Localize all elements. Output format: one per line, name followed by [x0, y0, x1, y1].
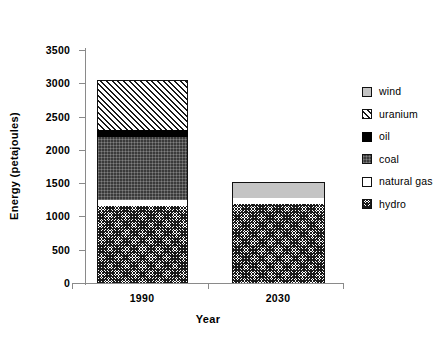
- y-tick-3500: 3500: [79, 50, 85, 51]
- x-category-label-1990: 1990: [130, 292, 155, 304]
- y-tick-2500: 2500: [79, 117, 85, 118]
- y-tick-label-3000: 3000: [46, 77, 70, 89]
- y-tick-1000: 1000: [79, 216, 85, 217]
- legend-label-wind: wind: [379, 86, 401, 97]
- y-tick-label-1000: 1000: [46, 210, 70, 222]
- bar-2030-segment-hydro: [232, 204, 325, 283]
- legend-swatch-wind-icon: [362, 87, 372, 97]
- bar-2030-segment-natural-gas: [232, 198, 325, 204]
- y-tick-label-2000: 2000: [46, 144, 70, 156]
- bar-1990-segment-oil: [97, 130, 188, 137]
- x-category-label-2030: 2030: [266, 292, 291, 304]
- legend-label-oil: oil: [379, 131, 390, 142]
- bar-1990-segment-uranium: [97, 80, 188, 130]
- y-tick-label-1500: 1500: [46, 177, 70, 189]
- y-tick-label-3500: 3500: [46, 44, 70, 56]
- energy-stacked-bar-chart: Energy (petajoules) 3500 3000 2500 2000 …: [0, 0, 448, 340]
- legend-swatch-uranium-icon: [362, 109, 372, 119]
- bar-2030: [232, 182, 325, 283]
- legend-swatch-hydro-icon: [362, 199, 372, 209]
- legend-label-uranium: uranium: [379, 109, 418, 120]
- legend-label-hydro: hydro: [379, 199, 406, 210]
- legend-swatch-oil-icon: [362, 132, 372, 142]
- plot-area: 3500 3000 2500 2000 1500 1000 500 0: [85, 50, 333, 283]
- bar-1990: [97, 80, 188, 283]
- y-tick-500: 500: [79, 250, 85, 251]
- y-tick-3000: 3000: [79, 83, 85, 84]
- legend-swatch-coal-icon: [362, 154, 372, 164]
- y-tick-2000: 2000: [79, 150, 85, 151]
- legend-swatch-natural-gas-icon: [362, 177, 372, 187]
- x-axis-label: Year: [196, 313, 220, 325]
- bar-1990-segment-coal: [97, 137, 188, 200]
- bar-2030-segment-wind: [232, 182, 325, 199]
- y-tick-0: 0: [79, 283, 85, 284]
- bar-1990-segment-hydro: [97, 206, 188, 283]
- legend-item-oil: oil: [362, 131, 446, 142]
- x-tick-right-end: [343, 283, 344, 289]
- legend-label-coal: coal: [379, 154, 399, 165]
- legend-item-uranium: uranium: [362, 109, 446, 120]
- legend-label-natural-gas: natural gas: [379, 176, 433, 187]
- x-tick-middle: [208, 283, 209, 289]
- legend-item-hydro: hydro: [362, 199, 446, 210]
- y-tick-1500: 1500: [79, 183, 85, 184]
- legend-item-coal: coal: [362, 154, 446, 165]
- legend: wind uranium oil coal natural gas hydro: [362, 86, 446, 221]
- y-axis-label: Energy (petajoules): [8, 112, 20, 220]
- y-tick-label-0: 0: [64, 277, 70, 289]
- x-tick-left-end: [72, 283, 73, 289]
- y-tick-label-2500: 2500: [46, 111, 70, 123]
- y-tick-label-500: 500: [52, 244, 70, 256]
- bar-1990-segment-natural-gas: [97, 200, 188, 206]
- legend-item-wind: wind: [362, 86, 446, 97]
- legend-item-natural-gas: natural gas: [362, 176, 446, 187]
